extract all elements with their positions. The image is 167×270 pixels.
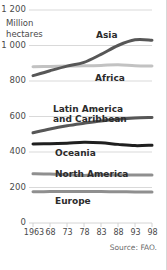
series-label-europe: Europe: [55, 196, 91, 206]
source-note: Source: FAO.: [110, 243, 157, 252]
series-label-latin-america-line1: Latin America: [53, 104, 123, 114]
y-axis-label: 400: [9, 147, 26, 156]
x-axis-label: 98: [147, 228, 157, 237]
series-label-asia: Asia: [96, 30, 117, 40]
x-axis-label: 78: [79, 228, 89, 237]
x-axis-label: 1963: [24, 228, 44, 237]
series-label-oceania: Oceania: [55, 148, 96, 158]
y-axis-unit-label: Million hectares: [6, 18, 43, 39]
x-axis-label: 83: [96, 228, 106, 237]
series-line-africa: [33, 65, 152, 67]
y-axis-unit-line2: hectares: [6, 29, 43, 40]
series-line-europe: [33, 191, 152, 192]
chart-figure: Million hectares 1 2001 0008006004002000…: [0, 0, 167, 270]
y-axis-label: 800: [9, 76, 26, 85]
series-label-north-america: North America: [55, 169, 128, 179]
x-axis-label: 88: [113, 228, 123, 237]
x-axis-label: 73: [62, 228, 72, 237]
series-label-latin-america-line2: and Caribbean: [53, 114, 127, 124]
y-axis-label: 600: [9, 112, 26, 121]
y-axis-label: 1 200: [1, 5, 26, 14]
series-line-asia: [33, 39, 152, 75]
x-axis-ticks: [33, 223, 152, 227]
y-axis-label: 200: [9, 183, 26, 192]
x-axis-label: 93: [130, 228, 140, 237]
y-axis-label: 0: [20, 218, 26, 227]
series-label-africa: Africa: [95, 73, 125, 83]
series-line-oceania: [33, 142, 152, 145]
y-axis-unit-line1: Million: [6, 18, 43, 29]
x-axis-label: 68: [45, 228, 55, 237]
y-axis-label: 1 000: [1, 41, 26, 50]
